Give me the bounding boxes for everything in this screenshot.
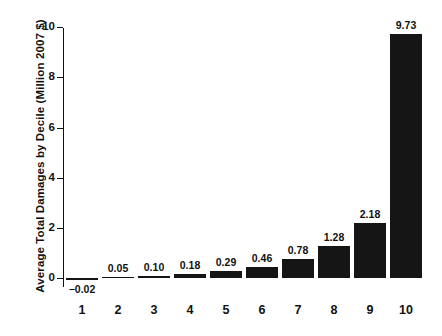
- bar[interactable]: [174, 274, 206, 279]
- y-axis-tick-label: 0: [15, 271, 55, 283]
- bar-group: −0.02: [64, 12, 100, 287]
- x-axis-tick-label: 9: [352, 303, 388, 317]
- x-axis-tick-label: 1: [64, 303, 100, 317]
- bar-group: 1.28: [316, 12, 352, 287]
- bar-group: 0.29: [208, 12, 244, 287]
- y-axis-title: Average Total Damages by Decile (Million…: [32, 16, 48, 296]
- plot-area: −0.020.050.100.180.290.460.781.282.189.7…: [63, 12, 442, 287]
- bar-chart-figure: Average Total Damages by Decile (Million…: [0, 0, 442, 336]
- y-axis-tick-label: 6: [15, 121, 55, 133]
- bar[interactable]: [390, 34, 422, 278]
- x-axis-tick-label: 2: [100, 303, 136, 317]
- x-axis-tick-label: 3: [136, 303, 172, 317]
- bar-value-label: 9.73: [382, 19, 430, 31]
- bar-group: 9.73: [388, 12, 424, 287]
- bar[interactable]: [246, 267, 278, 279]
- bar-group: 0.18: [172, 12, 208, 287]
- x-axis-tick-label: 6: [244, 303, 280, 317]
- bar[interactable]: [138, 276, 170, 279]
- bar-group: 2.18: [352, 12, 388, 287]
- y-axis-tick-label: 4: [15, 171, 55, 183]
- x-axis-tick-label: 4: [172, 303, 208, 317]
- bar[interactable]: [102, 277, 134, 279]
- bar[interactable]: [282, 259, 314, 279]
- bar-value-label: 0.78: [274, 244, 322, 256]
- x-axis-tick-label: 5: [208, 303, 244, 317]
- bar-value-label: 1.28: [310, 231, 358, 243]
- bar-group: 0.78: [280, 12, 316, 287]
- bar-group: 0.10: [136, 12, 172, 287]
- bar[interactable]: [210, 271, 242, 278]
- bar[interactable]: [66, 278, 98, 280]
- bar-group: 0.05: [100, 12, 136, 287]
- x-axis-tick-label: 8: [316, 303, 352, 317]
- bar[interactable]: [318, 246, 350, 278]
- bar[interactable]: [354, 223, 386, 278]
- y-axis-tick-label: 8: [15, 70, 55, 82]
- bar-value-label: 2.18: [346, 208, 394, 220]
- y-axis-tick-label: 2: [15, 221, 55, 233]
- x-axis-tick-label: 10: [388, 303, 424, 317]
- bar-value-label: −0.02: [58, 283, 106, 295]
- x-axis-tick-labels: 12345678910: [63, 303, 442, 321]
- x-axis-tick-label: 7: [280, 303, 316, 317]
- y-axis-tick-label: 10: [15, 20, 55, 32]
